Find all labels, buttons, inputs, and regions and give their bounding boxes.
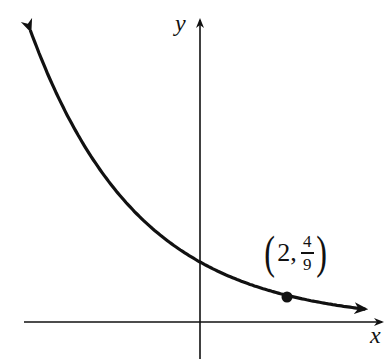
fraction-denominator: 9 <box>303 256 312 273</box>
x-axis-label: x <box>370 322 381 349</box>
fraction-numerator: 4 <box>303 233 312 250</box>
right-paren: ) <box>316 230 327 276</box>
point-label: ( 2, 4 9 ) <box>262 230 329 276</box>
point-y-fraction: 4 9 <box>301 233 314 272</box>
left-paren: ( <box>264 230 275 276</box>
graph-canvas <box>0 0 389 359</box>
fraction-bar <box>301 252 314 253</box>
highlighted-point <box>282 292 293 303</box>
y-axis-label: y <box>175 10 186 37</box>
point-x-value: 2, <box>277 238 297 268</box>
